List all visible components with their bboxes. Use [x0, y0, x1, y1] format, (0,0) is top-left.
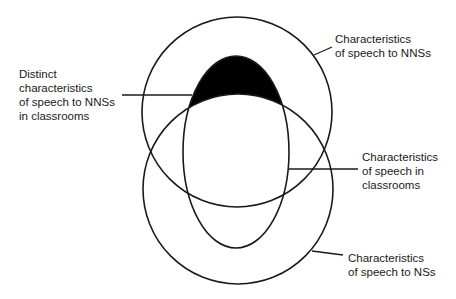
leader-line-nss	[312, 251, 343, 255]
leader-line-nnss	[314, 47, 332, 55]
label-speech-to-nnss: Characteristics of speech to NNSs	[335, 32, 431, 60]
label-speech-to-nss: Characteristics of speech to NSs	[348, 251, 436, 279]
label-distinct-characteristics: Distinct characteristics of speech to NN…	[19, 67, 115, 123]
label-speech-in-classrooms: Characteristics of speech in classrooms	[362, 150, 438, 192]
